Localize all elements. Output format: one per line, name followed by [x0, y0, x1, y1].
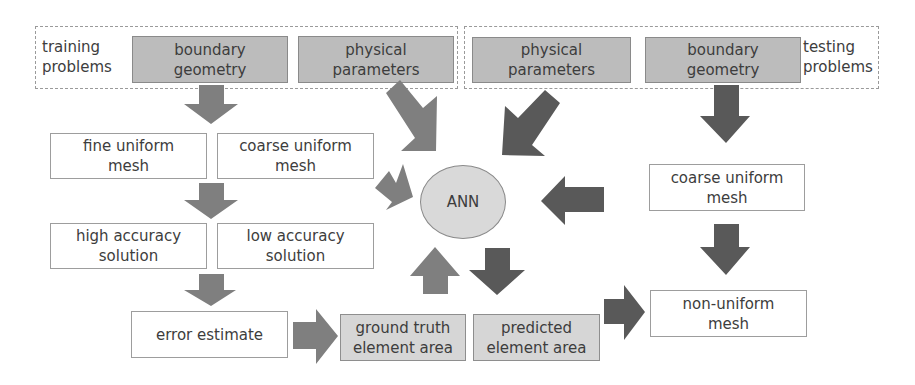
arrow-diagonal-icon	[502, 90, 560, 156]
arrow-diagonal-icon	[386, 80, 437, 151]
arrow-down-icon	[700, 85, 750, 143]
arrow-right-icon	[293, 309, 338, 364]
arrow-down-icon	[184, 85, 238, 124]
arrow-diagonal-icon	[375, 164, 413, 210]
arrow-down-icon	[184, 183, 238, 219]
arrow-down-icon	[184, 274, 236, 306]
flow-arrows	[0, 0, 915, 385]
arrow-left-icon	[541, 176, 604, 225]
arrow-right-icon	[604, 285, 645, 340]
arrow-up-icon	[410, 247, 460, 294]
arrow-down-icon	[469, 248, 525, 295]
arrow-down-icon	[700, 224, 750, 275]
